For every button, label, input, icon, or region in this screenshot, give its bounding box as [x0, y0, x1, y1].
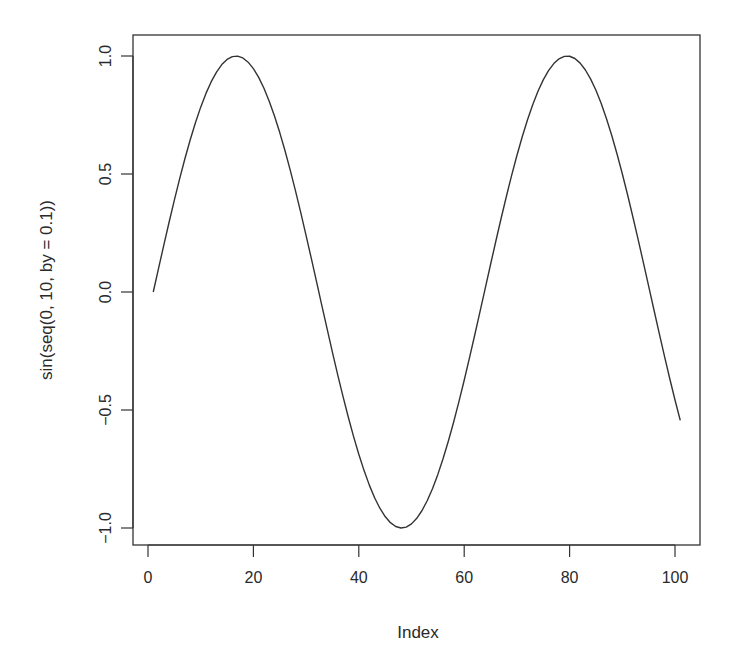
x-tick-label: 60: [455, 569, 473, 586]
x-tick-label: 20: [245, 569, 263, 586]
x-tick-label: 80: [561, 569, 579, 586]
y-tick-label: 0.5: [97, 163, 114, 185]
x-tick-label: 100: [662, 569, 689, 586]
y-tick-label: 1.0: [97, 45, 114, 67]
y-axis-title: sin(seq(0, 10, by = 0.1)): [37, 200, 56, 380]
y-axis: −1.0−0.50.00.51.0: [97, 45, 133, 544]
y-tick-label: −0.5: [97, 394, 114, 426]
x-tick-label: 0: [144, 569, 153, 586]
x-axis: 020406080100: [144, 545, 689, 586]
y-tick-label: −1.0: [97, 512, 114, 544]
plot-frame: [133, 35, 700, 545]
x-axis-title: Index: [397, 623, 439, 642]
sine-curve: [153, 56, 680, 528]
x-tick-label: 40: [350, 569, 368, 586]
line-chart: 020406080100 −1.0−0.50.00.51.0 Index sin…: [0, 0, 733, 670]
y-tick-label: 0.0: [97, 281, 114, 303]
